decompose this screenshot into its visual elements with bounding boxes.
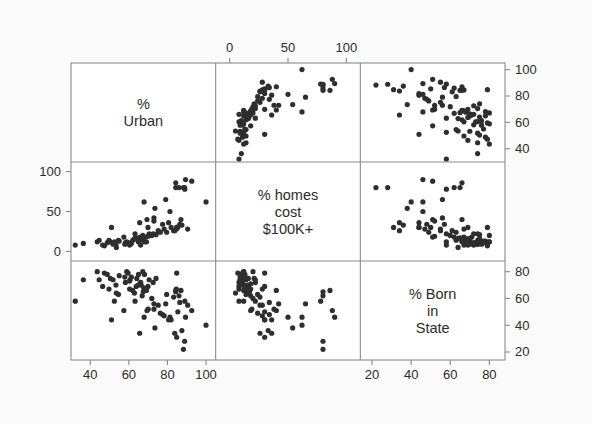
data-point (140, 234, 145, 239)
data-point (126, 270, 131, 275)
data-point (174, 335, 179, 340)
data-point (483, 113, 488, 118)
y-tick-label-homes100k: 50 (47, 204, 61, 219)
data-point (178, 288, 183, 293)
data-point (477, 236, 482, 241)
data-point (485, 87, 490, 92)
data-point (106, 286, 111, 291)
data-point (397, 88, 402, 93)
data-point (81, 277, 86, 282)
data-point (440, 95, 445, 100)
data-point (185, 226, 190, 231)
data-point (267, 312, 272, 317)
data-point (471, 231, 476, 236)
data-point (117, 238, 122, 243)
data-point (332, 81, 337, 86)
data-point (241, 299, 246, 304)
data-point (299, 67, 304, 72)
y-tick-label-homes100k: 100 (39, 164, 61, 179)
data-point (95, 269, 100, 274)
splom-panel-bornstate-vs-homes100k[interactable] (360, 162, 505, 261)
data-point (397, 228, 402, 233)
data-point (137, 220, 142, 225)
data-point (134, 284, 139, 289)
data-point (455, 245, 460, 250)
data-point (420, 109, 425, 114)
data-point (73, 242, 78, 247)
data-point (409, 67, 414, 72)
data-point (81, 241, 86, 246)
data-point (401, 84, 406, 89)
x-tick-label-bornstate: 40 (404, 367, 418, 382)
data-point (238, 123, 243, 128)
x-tick-label-homes100k: 0 (226, 40, 233, 55)
data-point (459, 117, 464, 122)
data-point (132, 299, 137, 304)
data-point (152, 206, 157, 211)
y-tick-label-urban: 80 (515, 88, 529, 103)
data-point (169, 317, 174, 322)
data-point (266, 328, 271, 333)
data-point (465, 138, 470, 143)
data-point (438, 100, 443, 105)
data-point (121, 308, 126, 313)
data-point (253, 280, 258, 285)
data-point (182, 185, 187, 190)
data-point (255, 311, 260, 316)
data-point (117, 273, 122, 278)
data-point (487, 233, 492, 238)
data-point (178, 217, 183, 222)
x-tick-label-urban: 40 (83, 367, 97, 382)
data-point (391, 225, 396, 230)
data-point (236, 112, 241, 117)
data-point (274, 107, 279, 112)
data-point (405, 206, 410, 211)
data-point (430, 217, 435, 222)
data-point (166, 220, 171, 225)
x-tick-label-bornstate: 60 (443, 367, 457, 382)
x-tick-label-urban: 60 (122, 367, 136, 382)
data-point (420, 199, 425, 204)
data-point (173, 289, 178, 294)
data-point (137, 331, 142, 336)
data-point (267, 97, 272, 102)
data-point (479, 242, 484, 247)
data-point (236, 299, 241, 304)
data-point (162, 313, 167, 318)
y-tick-label-urban: 100 (515, 62, 537, 77)
data-point (440, 197, 445, 202)
data-point (477, 114, 482, 119)
splom-panel-homes100k-vs-bornstate[interactable] (216, 261, 361, 360)
data-point (132, 231, 137, 236)
data-point (430, 77, 435, 82)
data-point (471, 103, 476, 108)
data-point (189, 179, 194, 184)
data-point (142, 199, 147, 204)
data-point (257, 89, 262, 94)
data-point (249, 307, 254, 312)
data-point (299, 323, 304, 328)
data-point (151, 307, 156, 312)
data-point (260, 80, 265, 85)
data-point (122, 242, 127, 247)
x-tick-label-homes100k: 100 (335, 40, 357, 55)
data-point (144, 217, 149, 222)
data-point (483, 135, 488, 140)
data-point (233, 291, 238, 296)
data-point (248, 111, 253, 116)
data-point (485, 225, 490, 230)
data-point (112, 299, 117, 304)
x-tick-label-bornstate: 20 (365, 367, 379, 382)
data-point (454, 94, 459, 99)
data-point (203, 199, 208, 204)
data-point (116, 292, 121, 297)
data-point (303, 301, 308, 306)
data-point (401, 222, 406, 227)
data-point (146, 234, 151, 239)
data-point (391, 87, 396, 92)
y-tick-label-homes100k: 0 (54, 244, 61, 259)
data-point (121, 234, 126, 239)
data-point (461, 238, 466, 243)
data-point (416, 220, 421, 225)
splom-panel-urban-vs-homes100k[interactable] (71, 162, 216, 261)
